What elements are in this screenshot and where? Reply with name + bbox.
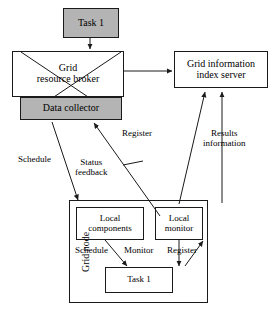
node-task-bottom[interactable]: Task 1 [105,267,173,293]
node-index-server-line2: index server [187,70,255,81]
node-task-top[interactable]: Task 1 [63,8,119,38]
node-index-server[interactable]: Grid information index server [174,51,268,88]
label-register-outer: Register [122,129,152,139]
grid-architecture-diagram: Task 1 Grid resource broker Data collect… [0,0,272,315]
node-task-bottom-label: Task 1 [127,275,151,285]
node-broker-line2: resource broker [37,74,99,85]
label-monitor-inner: Monitor [124,246,154,256]
node-local-components-line2: components [88,224,132,234]
label-results-information: Results information [203,129,246,148]
node-local-components[interactable]: Local components [76,207,144,240]
node-local-monitor-line2: monitor [165,224,194,234]
label-schedule-inner: Schedule [75,246,108,256]
node-data-collector[interactable]: Data collector [20,97,122,120]
node-index-server-line1: Grid information [187,59,255,70]
label-results-line2: information [203,139,246,149]
status-feedback-leader [123,161,143,165]
label-schedule-outer: Schedule [18,155,51,165]
node-grid-resource-broker[interactable]: Grid resource broker [12,51,124,97]
node-task-top-label: Task 1 [78,18,104,29]
label-status-feedback-line2: feedback [75,168,107,178]
node-local-monitor[interactable]: Local monitor [155,207,203,240]
label-register-inner: Register [167,246,197,256]
node-data-collector-label: Data collector [43,103,99,114]
label-status-feedback: Status feedback [75,158,107,177]
edge-register-to-index-server [179,92,205,204]
